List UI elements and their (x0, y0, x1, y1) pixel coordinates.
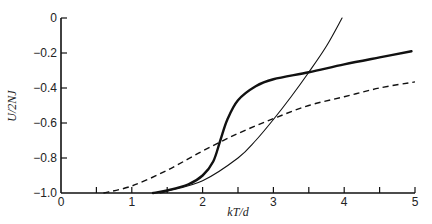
y-tick-label: −0.8 (33, 151, 57, 165)
x-axis-title: kT/d (227, 205, 249, 219)
x-tick-label: 3 (270, 195, 277, 209)
y-tick-label: −1.0 (33, 186, 57, 200)
x-tick-label: 4 (341, 195, 348, 209)
chart: 0123450−0.2−0.4−0.6−0.8−1.0 kT/d U/2NJ (0, 0, 432, 224)
x-tick-label: 2 (199, 195, 206, 209)
y-tick-label: 0 (50, 11, 57, 25)
y-tick-label: −0.2 (33, 46, 57, 60)
series-thick-solid (153, 51, 411, 193)
x-tick-label: 1 (128, 195, 135, 209)
x-tick-label: 0 (58, 195, 65, 209)
y-axis-title: U/2NJ (5, 90, 19, 122)
y-tick-label: −0.4 (33, 81, 57, 95)
series-group (103, 18, 415, 193)
axes: 0123450−0.2−0.4−0.6−0.8−1.0 (33, 11, 418, 209)
x-tick-label: 5 (412, 195, 419, 209)
series-dashed (103, 82, 415, 193)
y-tick-label: −0.6 (33, 116, 57, 130)
series-thin-solid (160, 18, 342, 193)
